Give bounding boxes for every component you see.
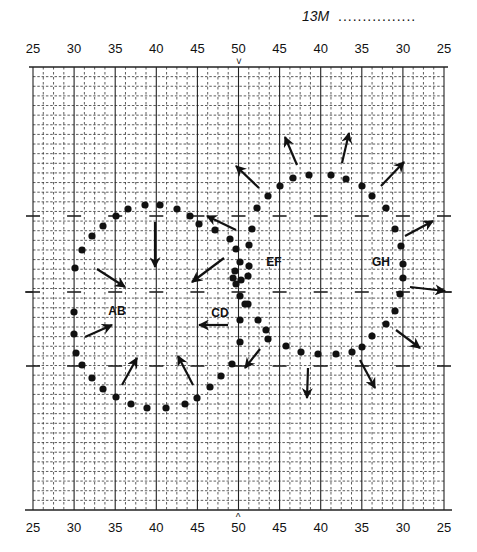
marker-dot bbox=[305, 171, 312, 178]
marker-dot bbox=[226, 235, 233, 242]
marker-dot bbox=[236, 292, 243, 299]
marker-dot bbox=[391, 307, 398, 314]
marker-dot bbox=[276, 182, 283, 189]
grid-diagram: ABCDEFGH bbox=[0, 0, 477, 552]
marker-dot bbox=[327, 171, 334, 178]
marker-dot bbox=[70, 330, 77, 337]
marker-dot bbox=[264, 335, 271, 342]
direction-arrow-icon bbox=[342, 133, 349, 163]
bottom-axis-tick-label: 30 bbox=[67, 520, 81, 535]
marker-dot bbox=[217, 372, 224, 379]
marker-dot bbox=[236, 258, 243, 265]
region-label: CD bbox=[211, 306, 229, 320]
marker-dot bbox=[112, 212, 119, 219]
marker-dot bbox=[127, 400, 134, 407]
marker-dot bbox=[181, 400, 188, 407]
bottom-axis-tick-label: 40 bbox=[149, 520, 163, 535]
direction-arrow-icon bbox=[410, 287, 445, 291]
marker-dot bbox=[211, 226, 218, 233]
marker-dot bbox=[248, 225, 255, 232]
bottom-axis-tick-label: 35 bbox=[355, 520, 369, 535]
marker-dot bbox=[358, 182, 365, 189]
marker-dot bbox=[348, 348, 355, 355]
marker-dot bbox=[399, 260, 406, 267]
marker-dot bbox=[173, 205, 180, 212]
marker-dot bbox=[254, 316, 261, 323]
marker-dot bbox=[71, 264, 78, 271]
marker-dot bbox=[245, 262, 252, 269]
direction-arrow-icon bbox=[207, 216, 236, 230]
direction-arrow-icon bbox=[307, 368, 308, 398]
marker-dot bbox=[396, 290, 403, 297]
marker-dot bbox=[78, 361, 85, 368]
marker-dot bbox=[368, 192, 375, 199]
bottom-axis-tick-label: 40 bbox=[313, 520, 327, 535]
marker-dot bbox=[112, 393, 119, 400]
marker-dot bbox=[342, 175, 349, 182]
marker-dot bbox=[358, 343, 365, 350]
bottom-axis-labels: 2530354045504540353025 bbox=[0, 520, 477, 538]
marker-dot bbox=[141, 201, 148, 208]
marker-dot bbox=[253, 204, 260, 211]
marker-dot bbox=[236, 316, 243, 323]
marker-dot bbox=[229, 274, 236, 281]
region-label: GH bbox=[372, 255, 390, 269]
direction-arrow-icon bbox=[405, 221, 433, 236]
marker-dot bbox=[399, 274, 406, 281]
marker-dot bbox=[382, 204, 389, 211]
bottom-axis-tick-label: 45 bbox=[190, 520, 204, 535]
marker-dot bbox=[193, 394, 200, 401]
marker-dot bbox=[99, 385, 106, 392]
marker-dot bbox=[143, 404, 150, 411]
direction-arrow-icon bbox=[122, 358, 137, 385]
marker-dot bbox=[262, 326, 269, 333]
marker-dot bbox=[391, 225, 398, 232]
marker-dot bbox=[88, 232, 95, 239]
bottom-axis-tick-label: 25 bbox=[26, 520, 40, 535]
marker-dot bbox=[264, 192, 271, 199]
marker-dot bbox=[232, 245, 239, 252]
marker-dot bbox=[162, 404, 169, 411]
marker-dot bbox=[382, 320, 389, 327]
marker-dot bbox=[186, 212, 193, 219]
marker-dot bbox=[124, 205, 131, 212]
marker-dot bbox=[206, 383, 213, 390]
marker-dot bbox=[368, 332, 375, 339]
marker-dot bbox=[228, 360, 235, 367]
direction-arrow-icon bbox=[97, 269, 125, 287]
region-label: AB bbox=[108, 304, 126, 318]
marker-dot bbox=[245, 241, 252, 248]
bottom-axis-tick-label: 35 bbox=[108, 520, 122, 535]
region-label: EF bbox=[266, 255, 281, 269]
marker-dot bbox=[99, 222, 106, 229]
marker-dot bbox=[314, 350, 321, 357]
marker-dot bbox=[156, 201, 163, 208]
direction-arrow-icon bbox=[396, 330, 420, 348]
bottom-axis-tick-label: 45 bbox=[272, 520, 286, 535]
bottom-axis-tick-label: 50 bbox=[231, 520, 245, 535]
bottom-axis-tick-label: 30 bbox=[396, 520, 410, 535]
marker-dot bbox=[70, 308, 77, 315]
direction-arrow-icon bbox=[236, 166, 259, 188]
marker-dot bbox=[195, 220, 202, 227]
marker-dot bbox=[282, 342, 289, 349]
marker-dot bbox=[244, 272, 251, 279]
marker-dot bbox=[332, 350, 339, 357]
marker-dot bbox=[241, 300, 248, 307]
marker-dot bbox=[397, 242, 404, 249]
marker-dot bbox=[237, 276, 244, 283]
marker-dot bbox=[88, 374, 95, 381]
marker-dot bbox=[297, 348, 304, 355]
direction-arrow-icon bbox=[285, 137, 297, 165]
bottom-axis-tick-label: 25 bbox=[437, 520, 451, 535]
marker-dot bbox=[236, 338, 243, 345]
marker-dot bbox=[78, 246, 85, 253]
marker-dot bbox=[289, 174, 296, 181]
direction-arrow-icon bbox=[178, 356, 193, 385]
marker-dot bbox=[231, 267, 238, 274]
marker-dot bbox=[72, 349, 79, 356]
